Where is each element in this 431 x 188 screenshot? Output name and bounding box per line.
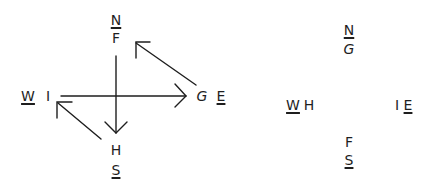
right-compass-west: W [286, 98, 300, 112]
right-compass-north: N [344, 23, 354, 37]
right-compass-east: E [404, 98, 413, 112]
arrow-i-to-g [61, 84, 186, 107]
left-compass-north: N [111, 13, 121, 27]
arrow-g-to-f [136, 42, 196, 85]
right-node-right: I [395, 98, 399, 112]
left-node-left: I [46, 89, 50, 103]
right-node-bottom: F [345, 135, 353, 149]
left-compass-south: S [112, 163, 121, 177]
arrow-f-to-h [105, 56, 127, 133]
left-compass-west: W [21, 89, 35, 103]
left-node-top: F [112, 31, 120, 45]
arrow-h-to-i [57, 102, 101, 139]
arrows [0, 0, 431, 188]
left-node-right: G [197, 89, 208, 103]
left-node-bottom: H [111, 143, 122, 157]
right-node-left: H [304, 98, 315, 112]
right-compass-south: S [345, 153, 354, 167]
left-compass-east: E [217, 89, 226, 103]
right-node-top: G [344, 42, 355, 56]
